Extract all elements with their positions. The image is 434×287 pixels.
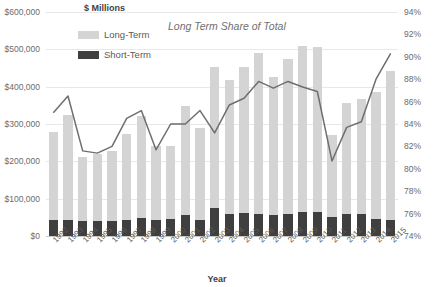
y-axis-right-tick: 94% xyxy=(404,7,421,17)
line-series-group xyxy=(46,12,398,236)
y-axis-right-tick: 80% xyxy=(404,164,421,174)
y-axis-right-tick: 88% xyxy=(404,74,421,84)
y-axis-left-tick: $0 xyxy=(31,231,40,241)
y-axis-left-tick: $400,000 xyxy=(5,82,40,92)
y-axis-left-tick: $100,000 xyxy=(5,194,40,204)
y-axis-left-tick: $600,000 xyxy=(5,7,40,17)
y-axis-left-tick: $200,000 xyxy=(5,156,40,166)
y-axis-right-tick: 92% xyxy=(404,29,421,39)
line-series-path xyxy=(53,53,390,161)
y-axis-left-tick: $500,000 xyxy=(5,44,40,54)
y-axis-right-tick: 90% xyxy=(404,52,421,62)
x-axis-title: Year xyxy=(0,274,434,284)
plot-area xyxy=(46,12,398,236)
y-axis-left-tick: $300,000 xyxy=(5,119,40,129)
y-axis-right-tick: 78% xyxy=(404,186,421,196)
y-axis-right-tick: 86% xyxy=(404,97,421,107)
y-axis-right-tick: 82% xyxy=(404,141,421,151)
y-axis-right-tick: 76% xyxy=(404,209,421,219)
y-axis-right-tick: 84% xyxy=(404,119,421,129)
chart-container: $ Millions Long Term Share of Total Long… xyxy=(0,0,434,287)
